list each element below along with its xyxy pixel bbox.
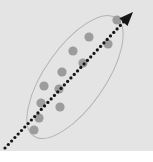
trend-dot: [40, 108, 43, 111]
trend-dot: [76, 69, 79, 72]
correlation-ellipse-group: [9, 1, 141, 153]
trend-dot: [50, 97, 53, 100]
trend-dot: [7, 143, 10, 146]
trend-dot: [99, 45, 102, 48]
trend-dot: [119, 24, 122, 27]
trend-arrow-group: [3, 12, 133, 150]
trend-dot: [36, 111, 39, 114]
trend-dot: [20, 129, 23, 132]
trend-dot: [92, 52, 95, 55]
trend-dot: [69, 76, 72, 79]
scatter-point: [57, 67, 66, 76]
scatter-point: [84, 32, 93, 41]
trend-dot: [109, 34, 112, 37]
trend-dot: [46, 101, 49, 104]
trend-dot: [115, 27, 118, 30]
scatter-plot-svg: [0, 0, 153, 162]
scatter-point: [68, 46, 77, 55]
trend-dot: [10, 139, 13, 142]
trend-dot: [26, 122, 29, 125]
scatter-point: [39, 81, 48, 90]
trend-dot: [30, 118, 33, 121]
figure-container: [0, 0, 153, 162]
trend-dot: [112, 31, 115, 34]
trend-dot: [66, 80, 69, 83]
figure-caption: [0, 151, 153, 162]
trend-dot: [96, 48, 99, 51]
trend-dot: [17, 132, 20, 135]
trend-dot: [63, 83, 66, 86]
trend-dot: [102, 41, 105, 44]
scatter-point: [29, 125, 38, 134]
trend-dot: [43, 104, 46, 107]
trend-dot: [86, 59, 89, 62]
trend-dot: [53, 94, 56, 97]
trend-dot: [23, 125, 26, 128]
trend-dot: [73, 73, 76, 76]
trend-dot: [83, 62, 86, 65]
correlation-ellipse: [9, 1, 141, 153]
trend-dot: [13, 136, 16, 139]
trend-dot: [106, 38, 109, 41]
scatter-point: [112, 15, 121, 24]
trend-dot: [59, 87, 62, 90]
trend-dot: [79, 66, 82, 69]
trend-dot: [3, 146, 6, 149]
trend-dot: [56, 90, 59, 93]
trend-dot: [33, 115, 36, 118]
scatter-point: [55, 102, 64, 111]
scatter-point: [34, 113, 43, 122]
trend-dot: [89, 55, 92, 58]
